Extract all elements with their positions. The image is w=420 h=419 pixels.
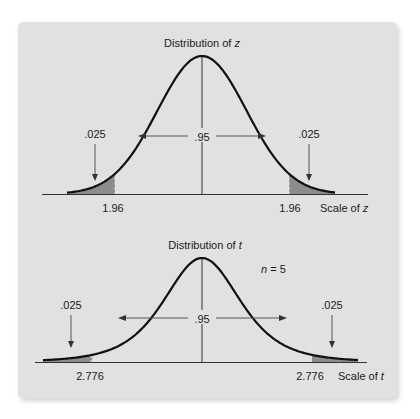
t-left-tail-arrowhead <box>68 341 74 348</box>
t-center-arrowhead-right <box>279 315 287 321</box>
t-center-arrowhead-left <box>118 315 126 321</box>
z-scale-label: Scale of z <box>320 202 369 214</box>
t-title: Distribution of t <box>168 239 242 251</box>
z-left-tail-label: .025 <box>84 128 105 140</box>
z-right-tail-label: .025 <box>298 128 319 140</box>
z-distribution-chart: Distribution of z .95 .025 .025 1.96 1.9… <box>42 37 369 214</box>
z-right-critical-label: 1.96 <box>279 202 300 214</box>
z-right-tail-arrowhead <box>306 174 312 181</box>
z-title: Distribution of z <box>164 37 240 49</box>
t-density-curve <box>43 258 358 360</box>
t-right-tail-label: .025 <box>321 299 342 311</box>
distribution-figure: Distribution of z .95 .025 .025 1.96 1.9… <box>0 0 420 419</box>
t-distribution-chart: Distribution of t n = 5 .95 .025 .025 2.… <box>35 239 385 382</box>
t-center-area-label: .95 <box>194 313 209 325</box>
t-left-tail-label: .025 <box>60 299 81 311</box>
t-right-critical-label: 2.776 <box>296 370 324 382</box>
t-sample-size-annotation: n = 5 <box>261 263 286 275</box>
z-left-tail-arrowhead <box>92 174 98 181</box>
t-right-tail-arrowhead <box>329 341 335 348</box>
z-left-critical-label: 1.96 <box>102 202 123 214</box>
z-center-area-label: .95 <box>194 131 209 143</box>
t-left-critical-label: 2.776 <box>76 370 104 382</box>
z-density-curve <box>67 56 335 193</box>
t-scale-label: Scale of t <box>338 370 385 382</box>
